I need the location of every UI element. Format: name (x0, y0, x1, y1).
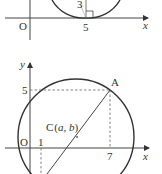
center-letter: C (46, 121, 53, 133)
diagram-canvas: 3 O 5 x y 5 A C(a, b) O 1 7 x (0, 0, 162, 174)
bottom-origin-label: O (20, 136, 28, 148)
bottom-y-axis-label: y (19, 58, 25, 70)
bottom-figure: y 5 A C(a, b) O 1 7 x (5, 58, 149, 174)
top-tangent-x-label: 5 (83, 21, 89, 33)
bottom-x-tick-7: 7 (107, 150, 113, 162)
bottom-y-tick-5: 5 (22, 84, 28, 96)
point-a-label: A (111, 76, 119, 88)
bottom-x-axis-label: x (142, 150, 148, 162)
bottom-x-tick-1: 1 (38, 136, 44, 148)
right-angle-icon (86, 11, 93, 18)
center-point (76, 136, 78, 138)
top-radius-label: 3 (77, 0, 83, 10)
top-origin-label: O (19, 20, 27, 32)
top-x-axis-label: x (142, 19, 148, 31)
center-label: C(a, b) (46, 121, 79, 134)
top-figure: 3 O 5 x (5, 0, 148, 40)
